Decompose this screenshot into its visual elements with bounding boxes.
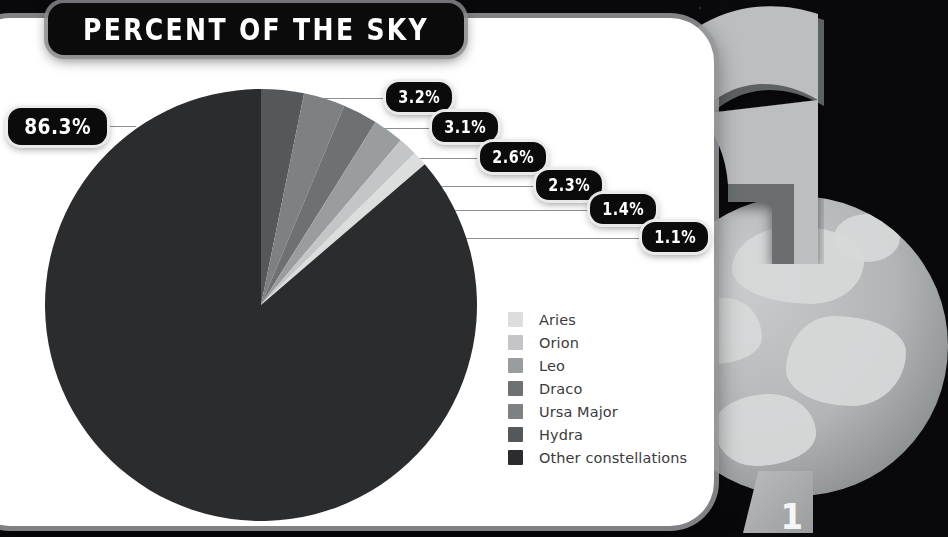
leader-line-aries bbox=[458, 238, 642, 239]
callout-draco-text: 2.6% bbox=[492, 147, 534, 167]
legend-label-other-constellations: Other constellations bbox=[539, 450, 687, 466]
legend-swatch-orion bbox=[508, 335, 523, 350]
pie-chart bbox=[44, 88, 478, 522]
chart-legend: Aries Orion Leo Draco Ursa Major Hydra O… bbox=[508, 308, 708, 469]
callout-leo: 2.3% bbox=[536, 170, 602, 200]
legend-label-draco: Draco bbox=[539, 381, 582, 397]
legend-swatch-other-constellations bbox=[508, 450, 523, 465]
legend-item-ursa-major: Ursa Major bbox=[508, 400, 708, 423]
callout-draco: 2.6% bbox=[480, 142, 546, 172]
callout-ursa-major: 3.1% bbox=[432, 112, 498, 142]
legend-swatch-draco bbox=[508, 381, 523, 396]
legend-item-draco: Draco bbox=[508, 377, 708, 400]
legend-swatch-ursa-major bbox=[508, 404, 523, 419]
page-title-text: PERCENT OF THE SKY bbox=[83, 12, 429, 47]
legend-label-hydra: Hydra bbox=[539, 427, 583, 443]
callout-hydra-text: 3.2% bbox=[398, 87, 440, 107]
callout-hydra: 3.2% bbox=[386, 82, 452, 112]
callout-other-text: 86.3% bbox=[24, 114, 91, 139]
legend-swatch-leo bbox=[508, 358, 523, 373]
legend-item-orion: Orion bbox=[508, 331, 708, 354]
legend-item-hydra: Hydra bbox=[508, 423, 708, 446]
page-title: PERCENT OF THE SKY bbox=[48, 3, 464, 55]
callout-leo-text: 2.3% bbox=[548, 175, 590, 195]
legend-label-orion: Orion bbox=[539, 335, 579, 351]
callout-other: 86.3% bbox=[8, 108, 107, 145]
callout-ursa-major-text: 3.1% bbox=[444, 117, 486, 137]
legend-swatch-hydra bbox=[508, 427, 523, 442]
legend-label-aries: Aries bbox=[539, 312, 576, 328]
callout-orion: 1.4% bbox=[590, 194, 656, 224]
legend-item-aries: Aries bbox=[508, 308, 708, 331]
legend-label-leo: Leo bbox=[539, 358, 565, 374]
page-number: 1 bbox=[780, 496, 803, 537]
callout-orion-text: 1.4% bbox=[602, 199, 644, 219]
legend-swatch-aries bbox=[508, 312, 523, 327]
legend-label-ursa-major: Ursa Major bbox=[539, 404, 618, 420]
legend-item-leo: Leo bbox=[508, 354, 708, 377]
legend-item-other-constellations: Other constellations bbox=[508, 446, 708, 469]
pie-svg bbox=[44, 88, 478, 522]
callout-aries: 1.1% bbox=[642, 222, 708, 252]
callout-aries-text: 1.1% bbox=[654, 227, 696, 247]
